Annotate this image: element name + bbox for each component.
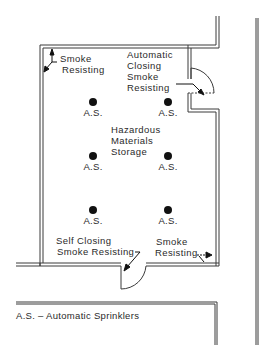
room-label-line: Materials [111,135,161,146]
annotation-line: Smoke Resisting [56,246,134,257]
far-right-wall [256,18,258,345]
sprinkler-dot-icon [164,206,172,214]
sprinkler-5: A.S. [78,206,108,226]
sprinkler-1: A.S. [78,98,108,118]
annotation-line: Smoke [60,53,105,64]
corridor-wall [16,302,217,345]
sprinkler-label: A.S. [158,161,177,172]
annotation-line: Resisting [127,82,173,93]
annotation-line: Smoke [155,236,198,247]
legend: A.S. – Automatic Sprinklers [16,310,139,321]
bottom-right-annotation: Smoke Resisting [155,236,198,258]
sprinkler-dot-icon [164,152,172,160]
sprinkler-label: A.S. [83,107,102,118]
sprinkler-label: A.S. [158,107,177,118]
room-left-wall [40,45,43,266]
room-top-wall [40,45,191,48]
annotation-line: Resisting [60,64,105,75]
sprinkler-dot-icon [164,98,172,106]
annotation-line: Resisting [155,247,198,258]
top-left-annotation: Smoke Resisting [60,53,105,75]
annotation-line: Self Closing [56,235,134,246]
top-right-annotation: Automatic Closing Smoke Resisting [127,49,173,93]
top-right-leader [176,84,201,92]
sprinkler-dot-icon [89,98,97,106]
bottom-left-annotation: Self Closing Smoke Resisting [56,235,134,257]
room-bottom-wall-right [146,263,219,266]
annotation-line: Smoke [127,71,173,82]
sprinkler-label: A.S. [83,161,102,172]
sprinkler-label: A.S. [158,215,177,226]
sprinkler-6: A.S. [153,206,183,226]
room-bottom-wall-left [16,263,121,266]
right-door-swing-arc [191,68,214,93]
sprinkler-4: A.S. [153,152,183,172]
room-label-line: Hazardous [111,124,161,135]
sprinkler-2: A.S. [153,98,183,118]
sprinkler-dot-icon [89,152,97,160]
upper-right-wall [188,16,219,48]
sprinkler-label: A.S. [83,215,102,226]
annotation-line: Closing [127,60,173,71]
annotation-line: Automatic [127,49,173,60]
sprinkler-dot-icon [89,206,97,214]
sprinkler-3: A.S. [78,152,108,172]
